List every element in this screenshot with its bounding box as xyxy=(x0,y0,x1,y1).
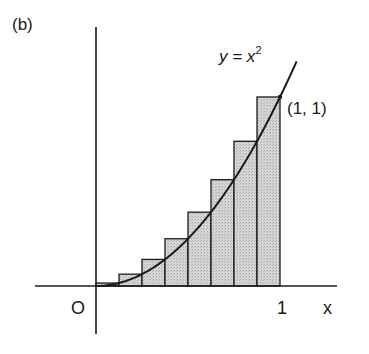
x-tick-label-1: 1 xyxy=(277,298,287,318)
riemann-rectangle xyxy=(188,212,211,286)
riemann-rectangles xyxy=(96,97,280,286)
x-axis-label: x xyxy=(323,298,332,318)
point-label: (1, 1) xyxy=(287,99,327,118)
origin-label: O xyxy=(71,298,85,318)
riemann-sum-diagram: (b) y = x2 (1, 1) O 1 x xyxy=(0,0,369,354)
panel-label: (b) xyxy=(12,15,33,34)
curve-label-text: y = x xyxy=(218,47,256,66)
curve-label-exponent: 2 xyxy=(255,44,261,56)
curve-label: y = x2 xyxy=(218,44,262,66)
riemann-rectangle xyxy=(257,97,280,286)
point-1-1-marker xyxy=(278,95,282,99)
riemann-rectangle xyxy=(165,239,188,286)
